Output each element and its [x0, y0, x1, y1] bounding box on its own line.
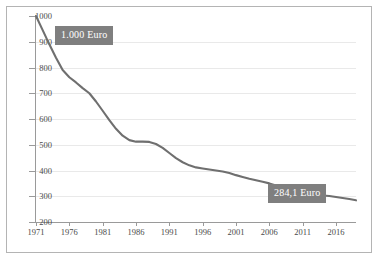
x-tick-mark	[236, 222, 237, 226]
x-tick-mark	[103, 222, 104, 226]
y-axis-tick-label: 400	[22, 167, 52, 176]
y-axis-tick-label: 900	[22, 38, 52, 47]
gridline	[36, 119, 356, 120]
x-axis-line	[35, 222, 356, 223]
x-tick-mark	[269, 222, 270, 226]
y-axis-tick-label: 500	[22, 141, 52, 150]
y-axis-tick-label: 300	[22, 192, 52, 201]
y-axis-tick-label: 700	[22, 89, 52, 98]
y-axis-tick-label: 600	[22, 115, 52, 124]
gridline	[36, 145, 356, 146]
x-axis-tick-label: 2016	[316, 228, 356, 237]
x-tick-mark	[36, 222, 37, 226]
gridline	[36, 93, 356, 94]
annotation-end-value: 284,1 Euro	[268, 184, 326, 203]
y-axis-tick-label: 1000	[22, 12, 52, 21]
y-axis-tick-label: 800	[22, 64, 52, 73]
chart-container: 1000900800700600500400300200 19711976198…	[0, 0, 380, 261]
x-tick-mark	[303, 222, 304, 226]
x-tick-mark	[169, 222, 170, 226]
x-tick-mark	[69, 222, 70, 226]
y-axis-tick-label: 200	[22, 218, 52, 227]
x-tick-mark	[336, 222, 337, 226]
x-tick-mark	[203, 222, 204, 226]
annotation-start-value: 1.000 Euro	[55, 26, 113, 45]
gridline	[36, 171, 356, 172]
gridline	[36, 68, 356, 69]
x-tick-mark	[136, 222, 137, 226]
